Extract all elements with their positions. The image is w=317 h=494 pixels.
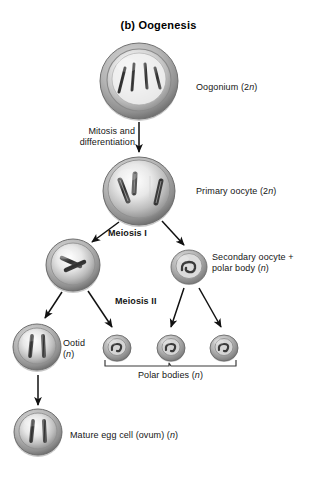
diagram-graphics <box>0 0 317 494</box>
arrow-first-polar-to-polar-body-2 <box>171 288 184 327</box>
cell-oogonium <box>100 43 178 121</box>
cell-mature-egg <box>14 409 62 457</box>
label-secondary-oocyte: Secondary oocyte + polar body (n) <box>212 252 294 274</box>
cell-polar-body-2 <box>157 335 185 362</box>
label-primary-oocyte: Primary oocyte (2n) <box>196 186 276 197</box>
label-oogonium: Oogonium (2n) <box>196 82 257 93</box>
arrow-secondary-to-polar-body-1 <box>88 291 112 327</box>
cell-primary-oocyte <box>103 157 175 227</box>
arrow-primary-to-first-polar-body <box>162 221 184 245</box>
label-meiosis-1: Meiosis I <box>108 228 147 239</box>
cell-first-polar-body <box>171 250 207 285</box>
cell-polar-body-3 <box>210 335 238 362</box>
oogenesis-diagram: (b) Oogenesis <box>0 0 317 494</box>
arrow-secondary-to-ootid <box>45 292 62 318</box>
arrow-first-polar-to-polar-body-3 <box>199 288 221 327</box>
label-mature-egg-cell: Mature egg cell (ovum) (n) <box>70 430 178 441</box>
label-polar-bodies: Polar bodies (n) <box>105 370 236 381</box>
label-ootid: Ootid (n) <box>63 338 85 360</box>
label-meiosis-2: Meiosis II <box>115 296 157 307</box>
label-mitosis-differentiation: Mitosis and differentiation <box>40 126 135 148</box>
cell-polar-body-1 <box>103 335 131 362</box>
cell-ootid <box>13 324 61 372</box>
cell-secondary-oocyte <box>46 239 100 293</box>
